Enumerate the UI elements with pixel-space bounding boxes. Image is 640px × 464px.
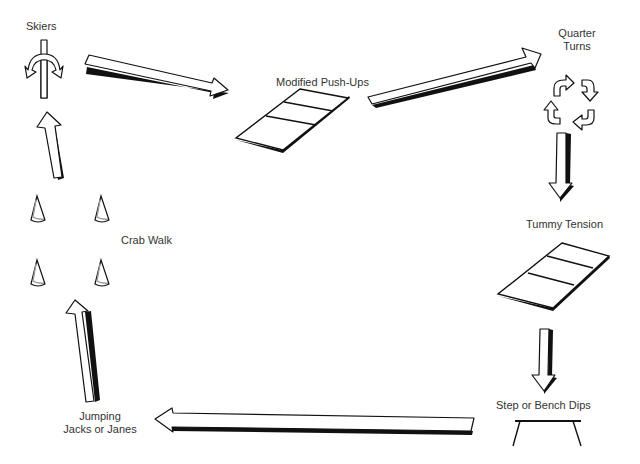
arrow-skiers-to-pushups xyxy=(85,55,229,99)
label-jumping-jacks: Jumping Jacks or Janes xyxy=(56,410,144,436)
label-skiers: Skiers xyxy=(26,20,57,33)
label-step-or-bench-dips: Step or Bench Dips xyxy=(496,399,591,412)
pushups-mat-icon xyxy=(236,89,350,153)
label-modified-push-ups: Modified Push-Ups xyxy=(276,76,369,89)
arrow-benchdips-to-jumpingjacks xyxy=(155,408,474,435)
arrow-jumpingjacks-to-crabwalk xyxy=(66,300,100,402)
tummy-tension-mat-icon xyxy=(498,243,610,311)
skiers-icon xyxy=(25,40,63,98)
label-quarter-turns-line2: Turns xyxy=(552,40,602,53)
bench-icon xyxy=(513,421,581,446)
circuit-diagram xyxy=(0,0,640,464)
arrow-quarterturns-to-tummy xyxy=(549,133,574,202)
arrow-tummy-to-benchdips xyxy=(532,329,557,394)
label-quarter-turns: Quarter Turns xyxy=(552,27,602,53)
label-jumping-jacks-line1: Jumping xyxy=(56,410,144,423)
cones-icon xyxy=(31,196,109,286)
label-quarter-turns-line1: Quarter xyxy=(552,27,602,40)
arrow-pushups-to-quarterturns xyxy=(368,48,541,108)
label-crab-walk: Crab Walk xyxy=(121,234,172,247)
quarter-turns-icon xyxy=(544,75,598,130)
label-tummy-tension: Tummy Tension xyxy=(526,218,603,231)
label-jumping-jacks-line2: Jacks or Janes xyxy=(56,423,144,436)
arrow-crabwalk-to-skiers xyxy=(37,112,64,180)
